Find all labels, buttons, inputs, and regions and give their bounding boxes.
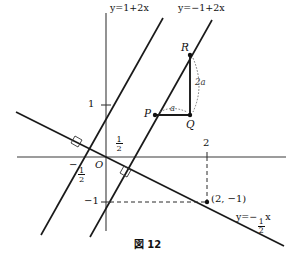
- label-line-minus-half-x: y=−12x: [236, 212, 271, 235]
- x-tick-label-minus-one-half: −12: [69, 160, 86, 183]
- dot-2-minus-1: [205, 200, 209, 204]
- point-label-2-minus-1: (2, −1): [211, 194, 246, 204]
- label-line-minus-1-plus-2x: y=−1+2x: [178, 3, 225, 13]
- point-label-R: R: [181, 42, 189, 53]
- label-prefix: y=−: [236, 211, 257, 222]
- y-tick-label-1: 1: [88, 99, 94, 109]
- caption-label: 図: [134, 239, 144, 250]
- fraction-one-half-negative: 12: [78, 166, 85, 183]
- fraction-denominator: 2: [116, 143, 123, 152]
- fraction-one-half-positive: 12: [116, 135, 123, 152]
- figure-caption: 図 12: [0, 236, 295, 251]
- fraction-one-half: 12: [258, 218, 265, 235]
- measure-label-2a: 2a: [195, 78, 205, 87]
- x-tick-label-one-half: 12: [115, 129, 123, 152]
- dot-P: [153, 113, 157, 117]
- point-label-Q: Q: [186, 119, 195, 130]
- measure-label-a: a: [170, 104, 175, 113]
- caption-number: 12: [147, 239, 161, 250]
- minus-sign: −: [69, 159, 77, 170]
- dot-R: [188, 53, 192, 57]
- dot-Q: [188, 113, 192, 117]
- label-line-1-plus-2x: y=1+2x: [110, 3, 149, 13]
- origin-label: O: [95, 160, 103, 170]
- fraction-denominator: 2: [78, 174, 85, 183]
- figure-container: y=1+2x y=−1+2x y=−12x O 1 −1 2 12 −12 P …: [0, 0, 295, 254]
- label-suffix: x: [265, 211, 270, 222]
- y-tick-label-minus-1: −1: [84, 196, 99, 206]
- fraction-numerator: 1: [116, 135, 123, 143]
- fraction-numerator: 1: [258, 218, 265, 226]
- point-label-P: P: [144, 108, 151, 119]
- fraction-numerator: 1: [78, 166, 85, 174]
- fraction-denominator: 2: [258, 226, 265, 235]
- x-tick-label-2: 2: [203, 138, 209, 148]
